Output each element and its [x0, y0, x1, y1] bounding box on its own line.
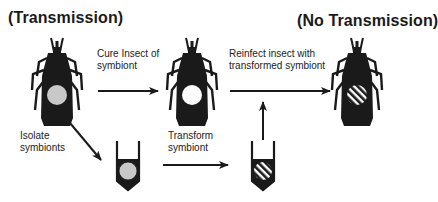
isolated-symbiont-tube-icon: [117, 141, 139, 190]
transformed-symbiont-tube-icon: [252, 141, 274, 190]
reinfected-insect-icon: [332, 38, 382, 126]
native-symbiont-icon: [47, 85, 67, 105]
transmission-title: (Transmission): [8, 9, 123, 27]
no-transmission-title: (No Transmission): [297, 12, 438, 30]
transformed-symbiont-icon: [347, 85, 367, 105]
cure-step-label: Cure Insect of symbiont: [97, 48, 159, 72]
isolate-arrow-icon: [70, 123, 101, 160]
cured-insect-icon: [167, 38, 217, 126]
isolate-step-label: Isolate symbionts: [20, 130, 65, 154]
empty-symbiont-slot-icon: [182, 85, 202, 105]
transform-step-label: Transform symbiont: [168, 130, 213, 154]
reinfect-step-label: Reinfect insect with transformed symbion…: [229, 48, 325, 72]
insect-with-symbiont-icon: [32, 38, 82, 126]
